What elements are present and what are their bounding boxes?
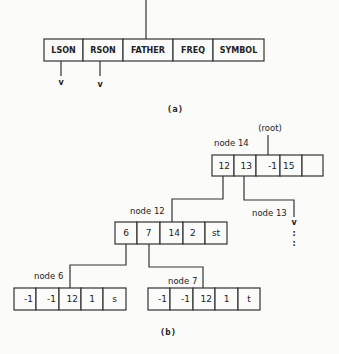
node12-rson: 7 [146,228,152,238]
node12-lson: 6 [123,228,129,238]
node7-freq: 1 [224,294,230,304]
continuation-dots-1: : [292,229,295,238]
node-structure-diagram: LSON RSON FATHER FREQ SYMBOL v v (a) [44,0,264,114]
node13-arrow-icon: v [291,218,297,227]
node7-label: node 7 [168,276,197,286]
node6-symbol: s [112,294,117,304]
node14-rson: 13 [241,161,252,171]
field-label-lson: LSON [51,46,75,55]
node14-label: node 14 [214,138,249,148]
root-label: (root) [258,123,282,133]
continuation-dots-2: : [292,239,295,248]
node12-record: 6 7 14 2 st [115,222,227,244]
node13-label: node 13 [252,208,287,218]
node7-record: -1 -1 12 1 t [148,288,260,310]
node7-rson: -1 [181,294,190,304]
node6-lson: -1 [24,294,33,304]
node7-lson: -1 [158,294,167,304]
node6-father: 12 [67,294,78,304]
node6-label: node 6 [34,271,63,281]
edge-node14-node12 [172,176,223,222]
rson-arrow-icon: v [97,80,103,89]
node14-freq: 15 [283,161,294,171]
node14-lson: 12 [219,161,230,171]
node12-symbol: st [212,228,221,238]
node6-rson: -1 [47,294,56,304]
node12-label: node 12 [130,206,165,216]
field-label-freq: FREQ [181,46,205,55]
node6-freq: 1 [89,294,95,304]
node7-father: 12 [201,294,212,304]
node6-record: -1 -1 12 1 s [14,288,126,310]
caption-a: (a) [167,104,183,114]
node14-record: 12 13 -1 15 [212,155,323,176]
tree-example-diagram: (root) node 14 12 13 -1 15 node 13 v : :… [14,123,323,337]
huffman-tree-diagram: LSON RSON FATHER FREQ SYMBOL v v (a) (ro… [0,0,339,354]
node12-father: 14 [169,228,181,238]
field-label-symbol: SYMBOL [220,46,258,55]
field-label-father: FATHER [131,46,165,55]
field-label-rson: RSON [90,46,115,55]
lson-arrow-icon: v [58,78,64,87]
node12-freq: 2 [190,228,196,238]
edge-node12-node6 [70,244,126,288]
node14-father: -1 [268,161,277,171]
caption-b: (b) [160,327,176,337]
node7-symbol: t [247,294,251,304]
